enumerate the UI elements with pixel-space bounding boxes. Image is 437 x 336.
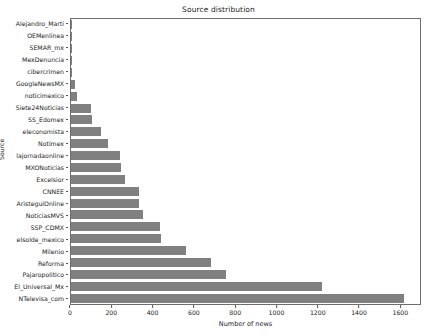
bar-NTelevisa_com xyxy=(71,294,404,303)
y-tick-Milenio: Milenio xyxy=(0,245,68,256)
plot-area xyxy=(70,18,421,305)
y-tick-noticimexico: noticimexico xyxy=(0,90,68,101)
y-tick-label: noticimexico xyxy=(25,92,64,99)
y-tick-El_Universal_Mx: El_Universal_Mx xyxy=(0,281,68,292)
bar-Pajaropolitico xyxy=(71,270,226,279)
y-tick-label: eleconomista xyxy=(23,128,64,135)
y-tick-OEMenlinea: OEMenlinea xyxy=(0,30,68,41)
x-tick-label: 400 xyxy=(147,309,159,316)
y-tick-label: Alejandro_Marti xyxy=(16,20,64,27)
bar-AristeguiOnline xyxy=(71,199,139,208)
y-tick-label: MXONoticias xyxy=(25,164,64,171)
y-tick-label: SS_Edomex xyxy=(28,116,64,123)
bar-OEMenlinea xyxy=(71,32,72,41)
x-tick-label: 1600 xyxy=(392,309,408,316)
x-tick-mark xyxy=(70,305,71,308)
bar-row xyxy=(71,19,420,30)
bar-row xyxy=(71,221,420,232)
bar-lajornadaonline xyxy=(71,151,120,160)
y-tick-NoticiasMVS: NoticiasMVS xyxy=(0,210,68,221)
x-tick-label: 1400 xyxy=(351,309,367,316)
bar-row xyxy=(71,55,420,66)
x-tick-label: 1200 xyxy=(310,309,326,316)
chart-title: Source distribution xyxy=(0,5,437,14)
x-tick-400: 400 xyxy=(147,305,159,316)
bar-row xyxy=(71,43,420,54)
x-tick-label: 200 xyxy=(105,309,117,316)
bar-row xyxy=(71,245,420,256)
bar-Milenio xyxy=(71,246,186,255)
x-tick-200: 200 xyxy=(105,305,117,316)
x-tick-mark xyxy=(317,305,318,308)
y-tick-SEMAR_mx: SEMAR_mx xyxy=(0,42,68,53)
bar-row xyxy=(71,126,420,137)
chart-figure: Source distribution Source Alejandro_Mar… xyxy=(0,0,437,336)
x-tick-mark xyxy=(400,305,401,308)
y-tick-MexDenuncia: MexDenuncia xyxy=(0,54,68,65)
bar-row xyxy=(71,79,420,90)
x-tick-mark xyxy=(152,305,153,308)
x-tick-label: 0 xyxy=(68,309,72,316)
y-tick-label: OEMenlinea xyxy=(27,32,64,39)
y-tick-lajornadaonline: lajornadaonline xyxy=(0,150,68,161)
bar-Reforma xyxy=(71,258,211,267)
bar-CNNEE xyxy=(71,187,139,196)
bar-series xyxy=(71,19,420,304)
bar-noticimexico xyxy=(71,92,77,101)
x-axis-label: Number of news xyxy=(70,320,421,328)
y-tick-label: NTelevisa_com xyxy=(19,295,64,302)
bar-NoticiasMVS xyxy=(71,210,143,219)
bar-El_Universal_Mx xyxy=(71,282,322,291)
y-tick-elsolde_mexico: elsolde_mexico xyxy=(0,234,68,245)
y-tick-label: Reforma xyxy=(38,260,64,267)
x-tick-600: 600 xyxy=(188,305,200,316)
x-tick-mark xyxy=(276,305,277,308)
y-tick-SSP_CDMX: SSP_CDMX xyxy=(0,222,68,233)
y-tick-MXONoticias: MXONoticias xyxy=(0,162,68,173)
bar-SS_Edomex xyxy=(71,115,92,124)
bar-SSP_CDMX xyxy=(71,222,160,231)
x-tick-mark xyxy=(193,305,194,308)
y-tick-SS_Edomex: SS_Edomex xyxy=(0,114,68,125)
x-tick-label: 1000 xyxy=(269,309,285,316)
y-tick-Reforma: Reforma xyxy=(0,257,68,268)
x-axis-tick-labels: 02004006008001000120014001600 xyxy=(70,305,421,317)
bar-row xyxy=(71,31,420,42)
bar-eleconomista xyxy=(71,127,101,136)
bar-row xyxy=(71,91,420,102)
bar-row xyxy=(71,209,420,220)
bar-row xyxy=(71,281,420,292)
bar-MXONoticias xyxy=(71,163,121,172)
x-tick-mark xyxy=(359,305,360,308)
x-tick-mark xyxy=(235,305,236,308)
y-tick-label: NoticiasMVS xyxy=(26,212,64,219)
bar-row xyxy=(71,114,420,125)
y-tick-label: Siete24Noticias xyxy=(16,104,64,111)
y-tick-label: Pajaropolitico xyxy=(23,271,64,278)
y-tick-label: Notimex xyxy=(38,140,64,147)
bar-row xyxy=(71,292,420,303)
y-tick-label: AristeguiOnline xyxy=(17,200,64,207)
y-tick-NTelevisa_com: NTelevisa_com xyxy=(0,293,68,304)
y-tick-AristeguiOnline: AristeguiOnline xyxy=(0,198,68,209)
bar-elsolde_mexico xyxy=(71,234,161,243)
y-tick-label: lajornadaonline xyxy=(16,152,64,159)
x-tick-mark xyxy=(111,305,112,308)
bar-row xyxy=(71,102,420,113)
y-tick-label: CNNEE xyxy=(43,188,64,195)
y-tick-Siete24Noticias: Siete24Noticias xyxy=(0,102,68,113)
y-tick-cibercrimen: cibercrimen xyxy=(0,66,68,77)
bar-row xyxy=(71,257,420,268)
x-tick-1000: 1000 xyxy=(269,305,285,316)
bar-GoogleNewsMX xyxy=(71,80,75,89)
bar-MexDenuncia xyxy=(71,56,72,65)
bar-row xyxy=(71,162,420,173)
y-tick-Excelsior: Excelsior xyxy=(0,174,68,185)
x-tick-1600: 1600 xyxy=(392,305,408,316)
y-tick-Alejandro_Marti: Alejandro_Marti xyxy=(0,18,68,29)
x-tick-800: 800 xyxy=(229,305,241,316)
bar-row xyxy=(71,174,420,185)
bar-row xyxy=(71,197,420,208)
y-tick-label: El_Universal_Mx xyxy=(14,283,64,290)
y-axis-tick-labels: Alejandro_MartiOEMenlineaSEMAR_mxMexDenu… xyxy=(0,18,68,305)
